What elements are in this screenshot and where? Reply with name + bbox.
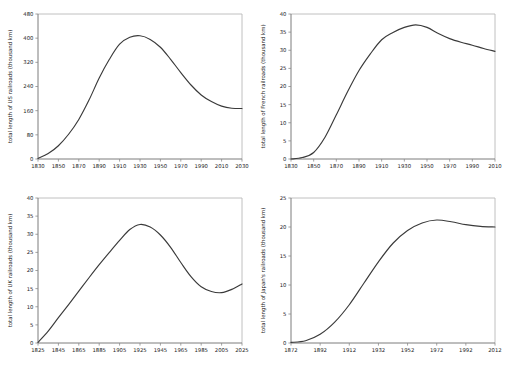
svg-text:80: 80 bbox=[27, 132, 34, 138]
svg-text:1870: 1870 bbox=[72, 163, 86, 169]
svg-text:20: 20 bbox=[280, 83, 287, 89]
chart-panel-japan: 1872189219121932195219721992201205101520… bbox=[253, 184, 505, 367]
svg-text:1872: 1872 bbox=[284, 347, 297, 353]
svg-text:1850: 1850 bbox=[307, 163, 321, 169]
svg-text:20: 20 bbox=[27, 267, 34, 273]
chart-panel-uk: 1825184518651885190519251945196519852005… bbox=[0, 184, 252, 367]
svg-text:25: 25 bbox=[280, 195, 287, 201]
svg-text:1870: 1870 bbox=[330, 163, 344, 169]
svg-text:1830: 1830 bbox=[284, 163, 298, 169]
data-curve bbox=[291, 25, 495, 159]
svg-text:0: 0 bbox=[283, 156, 287, 162]
svg-text:1950: 1950 bbox=[420, 163, 434, 169]
chart-svg-us: 1830185018701890191019301950197019902010… bbox=[0, 0, 252, 183]
svg-text:1845: 1845 bbox=[52, 347, 65, 353]
svg-text:25: 25 bbox=[27, 249, 34, 255]
svg-text:5: 5 bbox=[283, 311, 286, 317]
svg-text:240: 240 bbox=[23, 83, 34, 89]
chart-svg-japan: 1872189219121932195219721992201205101520… bbox=[253, 184, 505, 367]
svg-text:35: 35 bbox=[27, 213, 34, 219]
svg-text:1890: 1890 bbox=[352, 163, 366, 169]
svg-text:1890: 1890 bbox=[92, 163, 106, 169]
svg-text:15: 15 bbox=[27, 286, 34, 292]
svg-text:1970: 1970 bbox=[174, 163, 188, 169]
svg-text:1905: 1905 bbox=[113, 347, 126, 353]
svg-text:0: 0 bbox=[283, 340, 287, 346]
svg-text:1825: 1825 bbox=[31, 347, 44, 353]
svg-text:320: 320 bbox=[23, 59, 34, 65]
svg-text:1990: 1990 bbox=[194, 163, 208, 169]
svg-text:160: 160 bbox=[23, 108, 34, 114]
svg-text:15: 15 bbox=[280, 253, 287, 259]
svg-text:25: 25 bbox=[280, 65, 287, 71]
svg-text:5: 5 bbox=[283, 138, 286, 144]
svg-text:1910: 1910 bbox=[113, 163, 127, 169]
svg-text:1930: 1930 bbox=[133, 163, 147, 169]
svg-text:1932: 1932 bbox=[372, 347, 385, 353]
svg-text:1985: 1985 bbox=[194, 347, 207, 353]
y-axis-title: total length of French railroads (thousa… bbox=[260, 24, 267, 148]
svg-text:1965: 1965 bbox=[174, 347, 187, 353]
svg-text:1952: 1952 bbox=[401, 347, 414, 353]
svg-text:40: 40 bbox=[27, 195, 34, 201]
chart-svg-france: 1830185018701890191019301950197019902010… bbox=[253, 0, 505, 183]
svg-text:20: 20 bbox=[280, 224, 287, 230]
svg-text:0: 0 bbox=[30, 340, 34, 346]
chart-svg-uk: 1825184518651885190519251945196519852005… bbox=[0, 184, 252, 367]
svg-text:400: 400 bbox=[23, 35, 34, 41]
svg-text:30: 30 bbox=[27, 231, 34, 237]
svg-text:2005: 2005 bbox=[215, 347, 228, 353]
y-axis-title: total length of US railroads (thousand k… bbox=[7, 30, 14, 144]
svg-text:1830: 1830 bbox=[31, 163, 45, 169]
y-axis-title: total length of Japan's railroads (thous… bbox=[260, 208, 267, 334]
svg-text:480: 480 bbox=[23, 11, 34, 17]
svg-text:1930: 1930 bbox=[398, 163, 412, 169]
svg-text:1972: 1972 bbox=[430, 347, 443, 353]
svg-text:1865: 1865 bbox=[72, 347, 85, 353]
svg-text:5: 5 bbox=[30, 322, 33, 328]
svg-text:1850: 1850 bbox=[52, 163, 66, 169]
svg-text:10: 10 bbox=[280, 282, 287, 288]
svg-text:2010: 2010 bbox=[488, 163, 502, 169]
svg-text:1992: 1992 bbox=[459, 347, 472, 353]
svg-text:1945: 1945 bbox=[154, 347, 167, 353]
svg-text:15: 15 bbox=[280, 102, 287, 108]
chart-panel-us: 1830185018701890191019301950197019902010… bbox=[0, 0, 252, 183]
data-curve bbox=[38, 224, 242, 342]
svg-text:35: 35 bbox=[280, 29, 287, 35]
svg-text:2012: 2012 bbox=[488, 347, 501, 353]
svg-text:2030: 2030 bbox=[235, 163, 249, 169]
svg-text:1970: 1970 bbox=[443, 163, 457, 169]
svg-text:2025: 2025 bbox=[235, 347, 248, 353]
data-curve bbox=[291, 220, 495, 342]
svg-text:1925: 1925 bbox=[133, 347, 146, 353]
svg-text:10: 10 bbox=[27, 304, 34, 310]
data-curve bbox=[38, 36, 242, 159]
chart-panel-france: 1830185018701890191019301950197019902010… bbox=[253, 0, 505, 183]
svg-text:1990: 1990 bbox=[466, 163, 480, 169]
svg-text:1950: 1950 bbox=[154, 163, 168, 169]
y-axis-title: total length of UK railroads (thousand k… bbox=[7, 214, 14, 328]
svg-text:40: 40 bbox=[280, 11, 287, 17]
svg-text:1885: 1885 bbox=[92, 347, 105, 353]
svg-text:2010: 2010 bbox=[215, 163, 229, 169]
svg-text:30: 30 bbox=[280, 47, 287, 53]
svg-text:1892: 1892 bbox=[313, 347, 326, 353]
svg-text:1910: 1910 bbox=[375, 163, 389, 169]
svg-text:10: 10 bbox=[280, 120, 287, 126]
svg-text:1912: 1912 bbox=[343, 347, 356, 353]
railroad-length-figure: 1830185018701890191019301950197019902010… bbox=[0, 0, 505, 367]
svg-text:0: 0 bbox=[30, 156, 34, 162]
